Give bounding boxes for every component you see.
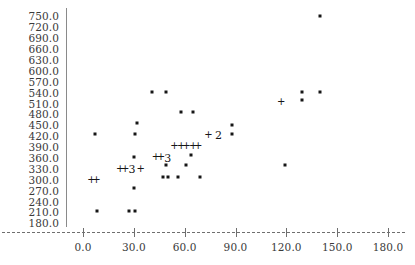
data-point: [93, 132, 96, 135]
data-point: [180, 110, 183, 113]
data-point: [185, 163, 188, 166]
overlap-marker: +: [277, 97, 285, 107]
data-point: [151, 90, 154, 93]
scatter-plot: 750.0720.0690.0660.0630.0600.0570.0540.0…: [0, 0, 415, 265]
data-point: [300, 90, 303, 93]
data-point: [134, 132, 137, 135]
data-point: [165, 90, 168, 93]
count-marker: 2: [215, 129, 222, 140]
data-point: [231, 123, 234, 126]
data-point: [95, 210, 98, 213]
data-point: [319, 15, 322, 18]
overlap-marker: +: [92, 175, 100, 185]
data-point: [132, 187, 135, 190]
count-marker: 3: [164, 152, 171, 163]
data-point: [166, 176, 169, 179]
data-point: [192, 110, 195, 113]
data-point: [127, 210, 130, 213]
overlap-marker: +: [136, 164, 144, 174]
data-point: [231, 133, 234, 136]
overlap-marker: +: [194, 141, 202, 151]
data-point: [283, 163, 286, 166]
data-point: [136, 121, 139, 124]
data-point: [176, 176, 179, 179]
data-point: [161, 176, 164, 179]
overlap-marker: +: [204, 130, 212, 140]
data-point: [132, 156, 135, 159]
count-marker: 3: [129, 164, 136, 175]
data-point: [300, 98, 303, 101]
data-layer: ++++++++++++++233: [0, 0, 415, 265]
data-point: [134, 210, 137, 213]
data-point: [319, 90, 322, 93]
data-point: [198, 176, 201, 179]
data-point: [190, 154, 193, 157]
